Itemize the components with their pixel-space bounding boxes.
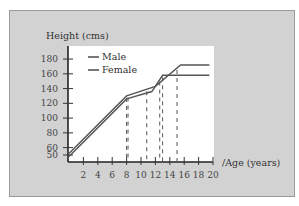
series-line-male bbox=[69, 65, 209, 154]
y-tick-label: 100 bbox=[41, 113, 58, 123]
y-tick-label: 140 bbox=[41, 84, 58, 94]
series-line-female bbox=[69, 75, 209, 156]
x-tick-label: 12 bbox=[150, 170, 161, 180]
x-tick-label: 2 bbox=[81, 170, 87, 180]
x-tick-label: 4 bbox=[95, 170, 101, 180]
x-tick-label: 14 bbox=[164, 170, 176, 180]
x-tick-label: 6 bbox=[109, 170, 115, 180]
y-tick-label: 80 bbox=[47, 128, 59, 138]
x-tick-label: 10 bbox=[135, 170, 147, 180]
y-tick-label: 120 bbox=[41, 98, 58, 108]
y-tick-label: 160 bbox=[41, 69, 58, 79]
y-tick-label: 60 bbox=[47, 143, 59, 153]
x-tick-label: 20 bbox=[207, 170, 219, 180]
x-tick-label: 18 bbox=[193, 170, 205, 180]
x-tick-label: 16 bbox=[178, 170, 190, 180]
chart-svg: 5060801001201401601802468101214161820 bbox=[0, 0, 299, 206]
y-tick-label: 180 bbox=[41, 54, 58, 64]
x-tick-label: 8 bbox=[124, 170, 130, 180]
